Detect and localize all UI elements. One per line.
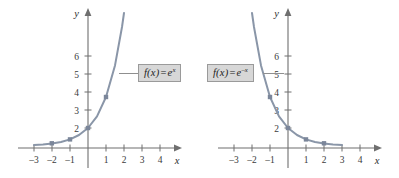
right-y-axis-name: y [273,8,279,19]
right-function-label: f(x)=e–x [207,64,254,82]
left-xtick-2: 2 [122,155,127,165]
left-y-axis [85,8,92,168]
right-xtick--1: –1 [264,155,275,165]
right-function-name: f(x) [213,67,228,78]
left-xtick-1: 1 [104,155,109,165]
left-x-axis-name: x [174,155,180,166]
left-xtick--1: –1 [64,155,75,165]
left-y-axis-name: y [73,8,79,19]
left-xtick--2: –2 [46,155,57,165]
left-xtick-4: 4 [158,155,163,165]
figure-canvas: –3 –2 –1 1 2 3 4 2 3 4 5 6 y x [0,0,399,178]
left-chart-svg: –3 –2 –1 1 2 3 4 2 3 4 5 6 y x [0,0,199,178]
right-ytick-4: 4 [274,88,279,98]
right-xtick--3: –3 [228,155,239,165]
left-function-name: f(x) [144,67,159,78]
right-xtick--2: –2 [246,155,257,165]
chart-panel-exponential-growth: –3 –2 –1 1 2 3 4 2 3 4 5 6 y x [0,0,199,178]
left-xtick-3: 3 [140,155,145,165]
left-data-markers [50,95,109,146]
right-x-axis-name: x [374,155,380,166]
right-xtick-4: 4 [358,155,363,165]
left-xtick--3: –3 [28,155,39,165]
left-curve-exp-x [34,13,124,145]
left-function-label: f(x)=ex [138,64,181,82]
right-curve-exp-neg-x [252,13,342,145]
right-xtick-2: 2 [322,155,327,165]
right-exponent: –x [241,66,247,73]
right-xtick-1: 1 [304,155,309,165]
left-ytick-2: 2 [74,124,79,134]
left-ytick-5: 5 [74,70,79,80]
left-exponent: x [172,66,175,73]
left-ytick-6: 6 [74,52,79,62]
left-callout-leader-line [119,73,139,74]
right-callout-leader-line [263,73,284,74]
right-ytick-5: 5 [274,70,279,80]
right-xtick-3: 3 [340,155,345,165]
right-ytick-6: 6 [274,52,279,62]
left-ytick-3: 3 [74,106,79,116]
right-y-axis [285,8,292,168]
right-x-axis [218,145,382,152]
chart-panel-exponential-decay: –3 –2 –1 1 2 3 4 2 3 4 5 6 y x [200,0,399,178]
left-ytick-4: 4 [74,88,79,98]
right-chart-svg: –3 –2 –1 1 2 3 4 2 3 4 5 6 y x [200,0,399,178]
right-equals-sign: = [228,67,236,78]
right-ytick-2: 2 [274,124,279,134]
right-data-markers [268,95,326,146]
left-equals-sign: = [159,67,167,78]
